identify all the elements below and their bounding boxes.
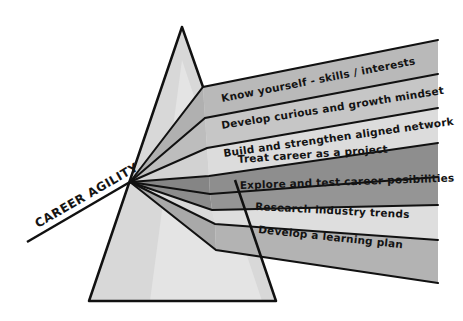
- career-agility-prism-diagram: CAREER AGILITY Know yourself - skills / …: [0, 0, 463, 321]
